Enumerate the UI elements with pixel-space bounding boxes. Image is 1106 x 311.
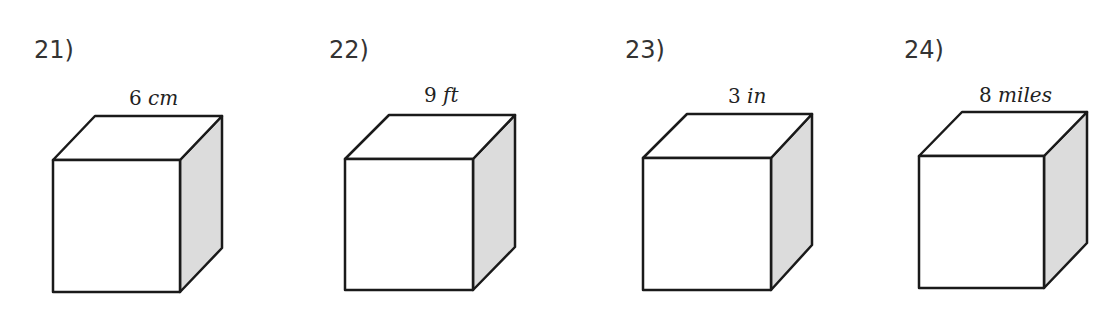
cube-22 <box>345 115 515 290</box>
cube-23 <box>643 114 812 290</box>
cube-24 <box>919 112 1087 288</box>
cube-figures <box>0 0 1106 311</box>
cube-21 <box>53 116 222 292</box>
